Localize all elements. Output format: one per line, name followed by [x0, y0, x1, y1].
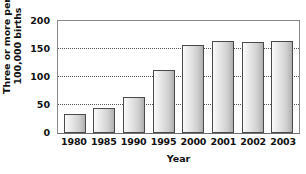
bar-2000: [182, 45, 204, 133]
y-axis-tick-labels: 050100150200: [24, 0, 50, 174]
y-axis-tick-label: 100: [24, 71, 50, 82]
bar-1990: [123, 97, 145, 133]
bar-slot: [267, 21, 297, 133]
bar-slot: [238, 21, 268, 133]
plot-area: [57, 20, 300, 134]
bar-slot: [179, 21, 209, 133]
x-axis-tick-labels: 19801985199019952000200120022003: [57, 136, 300, 147]
x-axis-tick-label: 1985: [89, 136, 119, 147]
x-axis-tick-label: 1980: [59, 136, 89, 147]
bar-slot: [119, 21, 149, 133]
x-axis-title: Year: [57, 153, 300, 164]
y-axis-tick-label: 50: [24, 99, 50, 110]
bar-slot: [208, 21, 238, 133]
x-axis-tick-label: 1990: [119, 136, 149, 147]
bar-1985: [93, 108, 115, 133]
y-axis-title-line-1: Three or more per: [1, 0, 12, 94]
y-axis-tick-label: 150: [24, 43, 50, 54]
bar-series: [58, 21, 299, 133]
x-axis-tick-label: 2000: [179, 136, 209, 147]
bar-1980: [64, 114, 86, 133]
bar-1995: [153, 70, 175, 133]
y-axis-title: Three or more per 100,000 births: [0, 0, 25, 105]
bar-slot: [60, 21, 90, 133]
y-axis-title-line-2: 100,000 births: [12, 8, 23, 85]
bar-2002: [242, 42, 264, 133]
bar-chart: Three or more per 100,000 births 0501001…: [0, 0, 306, 174]
x-axis-tick-label: 2002: [238, 136, 268, 147]
bar-slot: [90, 21, 120, 133]
bar-2003: [271, 41, 293, 133]
bar-2001: [212, 41, 234, 133]
bar-slot: [149, 21, 179, 133]
x-axis-tick-label: 1995: [149, 136, 179, 147]
x-axis-tick-label: 2001: [208, 136, 238, 147]
x-axis-tick-label: 2003: [268, 136, 298, 147]
y-axis-tick-label: 200: [24, 15, 50, 26]
y-axis-tick-label: 0: [24, 127, 50, 138]
